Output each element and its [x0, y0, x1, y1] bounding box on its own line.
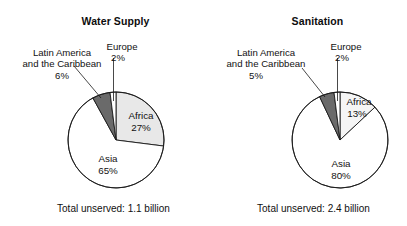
label-asia-value: 65% [98, 165, 118, 176]
label-africa-name: Africa [128, 110, 154, 121]
chart-panel-sanitation: Sanitation Latin America and the Caribbe… [204, 0, 407, 226]
pie-chart-water-supply: Latin America and the Caribbean 6% Europ… [0, 0, 203, 226]
label-asia-name: Asia [98, 153, 118, 164]
label-latin-america-value: 6% [55, 70, 69, 81]
label-europe-value: 2% [335, 52, 349, 63]
chart-panel-water-supply: Water Supply Latin America and the Carib… [0, 0, 203, 226]
label-latin-america-line2: and the Caribbean [227, 58, 306, 69]
label-africa-name: Africa [346, 96, 372, 107]
label-africa-value: 13% [347, 108, 367, 119]
label-asia-value: 80% [331, 170, 351, 181]
figure-two-pie-charts: Water Supply Latin America and the Carib… [0, 0, 407, 226]
leader-line-latin-america [74, 66, 101, 98]
label-latin-america-value: 5% [249, 70, 263, 81]
label-europe-name: Europe [331, 41, 362, 52]
label-latin-america-line1: Latin America [237, 47, 296, 58]
leader-line-latin-america [302, 68, 325, 97]
caption-total-unserved-water: Total unserved: 1.1 billion [12, 203, 215, 214]
label-europe-value: 2% [111, 52, 125, 63]
label-asia-name: Asia [331, 158, 351, 169]
label-europe-name: Europe [107, 41, 138, 52]
label-latin-america-line1: Latin America [33, 47, 92, 58]
pie-chart-sanitation: Latin America and the Caribbean 5% Europ… [204, 0, 407, 226]
caption-total-unserved-sanitation: Total unserved: 2.4 billion [212, 203, 407, 214]
label-latin-america-line2: and the Caribbean [23, 58, 102, 69]
label-africa-value: 27% [131, 122, 151, 133]
